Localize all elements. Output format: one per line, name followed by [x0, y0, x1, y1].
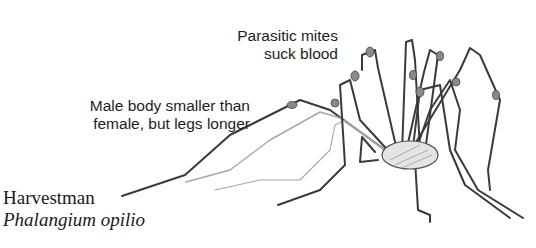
pedipalp [360, 137, 378, 162]
leg-right-tall [410, 48, 500, 190]
male-annotation-line2: female, but legs longer [30, 115, 250, 133]
species-caption: Harvestman Phalangium opilio [3, 187, 145, 231]
leg-front-left-down [278, 80, 395, 205]
male-annotation-line1: Male body smaller than [30, 97, 250, 115]
harvestman-figure: Parasitic mites suck blood Male body sma… [0, 0, 536, 248]
leg-up-1 [362, 50, 398, 155]
male-annotation: Male body smaller than female, but legs … [30, 97, 250, 133]
mites-annotation: Parasitic mites suck blood [200, 27, 338, 63]
scientific-name: Phalangium opilio [3, 209, 145, 231]
common-name: Harvestman [3, 187, 95, 208]
mites-annotation-line2: suck blood [200, 45, 338, 63]
leg-up-2 [402, 40, 420, 153]
mites-annotation-line1: Parasitic mites [200, 27, 338, 45]
leg-up-3 [406, 50, 438, 152]
